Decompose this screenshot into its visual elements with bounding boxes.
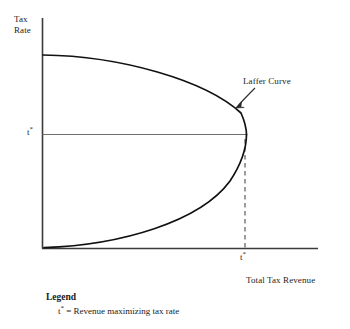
x-axis-tstar-tick-label: t* — [240, 252, 246, 263]
legend-entry: t* = Revenue maximizing tax rate — [58, 305, 179, 317]
y-axis-title-line2: Rate — [14, 25, 31, 36]
y-tick-superscript: * — [30, 125, 34, 133]
legend-title: Legend — [46, 291, 179, 303]
legend-entry-text: = Revenue maximizing tax rate — [66, 306, 179, 316]
legend-entry-superscript: * — [61, 304, 65, 312]
x-axis-title: Total Tax Revenue — [246, 275, 315, 286]
y-axis-title-line1: Tax — [14, 14, 28, 24]
laffer-curve-upper-branch — [43, 55, 247, 135]
x-tick-superscript: * — [243, 250, 247, 258]
y-axis-tstar-tick-label: t* — [27, 127, 33, 138]
laffer-curve-lower-branch — [44, 135, 247, 248]
laffer-curve-callout-label: Laffer Curve — [243, 76, 291, 87]
laffer-curve-figure: Tax Rate t* t* Total Tax Revenue Laffer … — [0, 0, 350, 329]
y-axis-title: Tax Rate — [14, 14, 31, 36]
legend: Legend t* = Revenue maximizing tax rate — [46, 291, 179, 317]
